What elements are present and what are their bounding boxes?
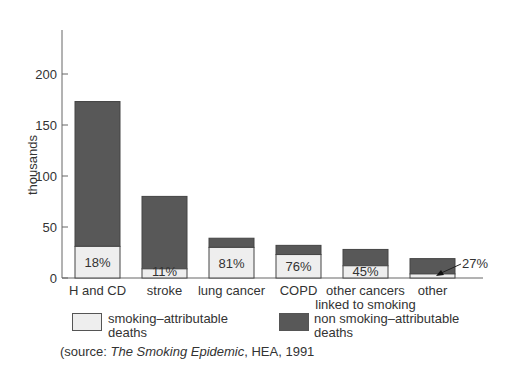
bar-non-smoking [75, 102, 120, 247]
x-tick-label: H and CD [69, 283, 126, 298]
percent-label: 18% [84, 255, 110, 270]
y-axis-label: thousands [25, 135, 40, 195]
percent-label: 76% [285, 259, 311, 274]
bar-non-smoking [209, 238, 254, 247]
stacked-bar-chart: 050100150200thousands H and CD18%stroke1… [0, 0, 505, 340]
x-tick-label: other [418, 283, 448, 298]
bar-non-smoking [142, 196, 187, 268]
x-tick-label: COPD [280, 283, 318, 298]
bar-non-smoking [276, 245, 321, 254]
x-tick-label: stroke [147, 283, 182, 298]
percent-label: 27% [462, 256, 488, 271]
y-tick-label: 0 [50, 271, 57, 286]
bar-non-smoking [410, 259, 455, 274]
legend-label-smoking-attributable: smoking–attributable deaths [108, 312, 228, 340]
y-tick-label: 150 [35, 118, 57, 133]
bars [75, 102, 455, 278]
x-tick-label: linked to smoking [315, 297, 415, 312]
legend-label-non-smoking-attributable: non smoking–attributable deaths [314, 312, 459, 340]
percent-label: 81% [218, 256, 244, 271]
percent-label: 45% [352, 264, 378, 279]
y-tick-label: 50 [43, 220, 57, 235]
y-tick-label: 200 [35, 67, 57, 82]
percent-label: 11% [152, 264, 177, 279]
x-tick-label: other cancers [326, 283, 405, 298]
x-tick-label: lung cancer [198, 283, 266, 298]
bar-smoking [410, 274, 455, 278]
legend-swatch-smoking-attributable [72, 313, 102, 331]
legend-swatch-non-smoking-attributable [279, 313, 309, 331]
source-citation: (source: The Smoking Epidemic, HEA, 1991 [60, 344, 314, 359]
